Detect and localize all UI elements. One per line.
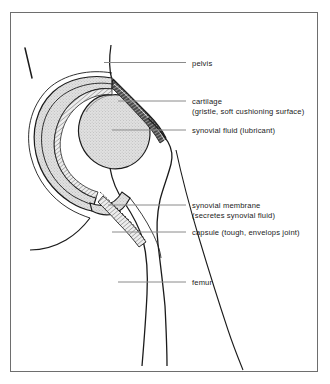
figure-border (11, 13, 318, 372)
label-synovial-fluid: synovial fluid (lubricant) (192, 126, 276, 135)
background-bone-edge (176, 150, 243, 370)
label-cartilage-detail: (gristle, soft cushioning surface) (192, 107, 305, 116)
label-capsule: capsule (tough, envelops joint) (192, 228, 300, 237)
label-synovial-membrane: synovial membrane (192, 201, 260, 210)
hip-joint-diagram: pelvis cartilage (gristle, soft cushioni… (0, 0, 330, 384)
ilium-edge-stroke (25, 48, 32, 78)
label-cartilage: cartilage (192, 97, 222, 106)
label-pelvis: pelvis (192, 59, 212, 68)
label-femur: femur (192, 278, 212, 287)
ischium-lower-contour (30, 218, 90, 250)
femur-neck-trochanter-outline (148, 118, 172, 366)
label-synovial-membrane-detail: (secretes synovial fluid) (192, 211, 275, 220)
